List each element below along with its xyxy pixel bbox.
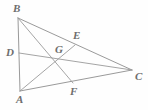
point-label-C: C [135,71,142,82]
segment-AE [20,45,75,91]
point-label-D: D [6,47,14,58]
point-label-A: A [16,94,23,105]
geometry-figure: ABCDEFG [0,0,148,110]
segment-BA [18,18,20,91]
segment-BC [18,18,132,70]
point-label-E: E [73,30,80,41]
point-label-F: F [70,86,77,97]
segment-BF [18,18,73,83]
point-label-G: G [55,44,63,55]
point-label-B: B [13,3,20,14]
segment-CD [19,53,132,70]
